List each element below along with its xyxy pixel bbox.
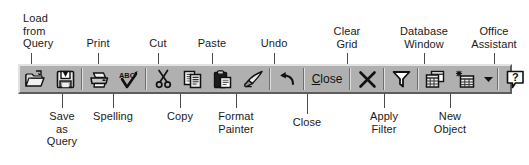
question-mark-balloon-icon: ? <box>506 70 525 89</box>
leader-new-object <box>450 94 451 108</box>
toolbar-button-close[interactable]: Close <box>306 66 348 92</box>
toolbar-group-query <box>20 66 80 92</box>
leader-cut <box>158 53 159 64</box>
leader-format-painter <box>236 94 237 108</box>
toolbar-separator <box>349 68 351 90</box>
printer-icon <box>89 70 110 89</box>
toolbar-button-clear-grid[interactable] <box>352 66 382 92</box>
leader-undo <box>274 53 275 64</box>
toolbar-group-filter <box>386 66 416 92</box>
chevron-down-icon <box>483 75 494 83</box>
figure-canvas: Load from Query Print Cut Paste Undo Cle… <box>0 0 529 165</box>
leader-save-as-query <box>62 94 63 108</box>
floppy-disk-save-query-icon <box>56 70 75 89</box>
scissors-icon <box>155 69 172 89</box>
toolbar-button-load-from-query[interactable] <box>20 66 50 92</box>
undo-arrow-icon <box>277 71 297 88</box>
toolbar-button-database-window[interactable] <box>420 66 450 92</box>
database-window-icon <box>425 70 446 89</box>
leader-office-assistant <box>494 53 495 64</box>
leader-clear-grid <box>347 53 348 64</box>
toolbar-group-clipboard <box>148 66 268 92</box>
callout-close: Close <box>293 116 322 129</box>
leader-load-from-query <box>31 53 32 64</box>
toolbar-button-cut[interactable] <box>148 66 178 92</box>
toolbar-button-office-assistant[interactable]: ? <box>500 66 529 92</box>
toolbar-group-database <box>420 66 496 92</box>
spelling-abc-check-icon: ABC <box>118 70 140 89</box>
toolbar-group-undo <box>272 66 302 92</box>
toolbar-separator <box>269 68 271 90</box>
leader-close <box>307 94 308 114</box>
callout-database-window: Database Window <box>400 25 448 50</box>
callout-spelling: Spelling <box>93 110 133 123</box>
callout-save-as-query: Save as Query <box>47 110 77 148</box>
toolbar-button-paste[interactable] <box>208 66 238 92</box>
leader-spelling <box>113 94 114 108</box>
callout-undo: Undo <box>261 37 288 50</box>
callout-cut: Cut <box>149 37 166 50</box>
toolbar-separator <box>383 68 385 90</box>
funnel-filter-icon <box>392 70 411 88</box>
callout-copy: Copy <box>167 110 193 123</box>
new-object-icon <box>455 70 476 89</box>
svg-text:?: ? <box>511 71 518 83</box>
leader-copy <box>180 94 181 108</box>
callout-print: Print <box>86 37 109 50</box>
toolbar-button-copy[interactable] <box>178 66 208 92</box>
toolbar-separator <box>81 68 83 90</box>
toolbar-group-clear-grid <box>352 66 382 92</box>
toolbar[interactable]: ABC <box>18 64 512 94</box>
leader-print <box>98 53 99 64</box>
leader-paste <box>212 53 213 64</box>
toolbar-group-print: ABC <box>84 66 144 92</box>
leader-database-window <box>424 53 425 64</box>
callout-apply-filter: Apply Filter <box>370 110 398 135</box>
callout-load-from-query: Load from Query <box>23 12 53 50</box>
toolbar-separator <box>145 68 147 90</box>
toolbar-button-new-object-dropdown[interactable] <box>480 66 496 92</box>
toolbar-button-new-object[interactable] <box>450 66 480 92</box>
toolbar-group-close: Close <box>306 66 348 92</box>
callout-format-painter: Format Painter <box>218 110 254 135</box>
callout-clear-grid: Clear Grid <box>334 25 361 50</box>
leader-apply-filter <box>384 94 385 108</box>
callout-office-assistant: Office Assistant <box>471 25 517 50</box>
x-cross-icon <box>358 70 377 89</box>
copy-documents-icon <box>183 70 203 89</box>
toolbar-separator <box>417 68 419 90</box>
toolbar-button-apply-filter[interactable] <box>386 66 416 92</box>
paintbrush-icon <box>243 70 264 89</box>
clipboard-paste-icon <box>213 70 233 89</box>
close-button-label: Close <box>312 72 343 86</box>
callout-paste: Paste <box>198 37 227 50</box>
callout-new-object: New Object <box>434 110 466 135</box>
toolbar-separator <box>497 68 499 90</box>
toolbar-group-help: ? <box>500 66 529 92</box>
toolbar-button-format-painter[interactable] <box>238 66 268 92</box>
open-folder-query-icon <box>25 70 45 89</box>
toolbar-button-save-as-query[interactable] <box>50 66 80 92</box>
toolbar-separator <box>303 68 305 90</box>
toolbar-button-spelling[interactable]: ABC <box>114 66 144 92</box>
toolbar-button-print[interactable] <box>84 66 114 92</box>
toolbar-button-undo[interactable] <box>272 66 302 92</box>
